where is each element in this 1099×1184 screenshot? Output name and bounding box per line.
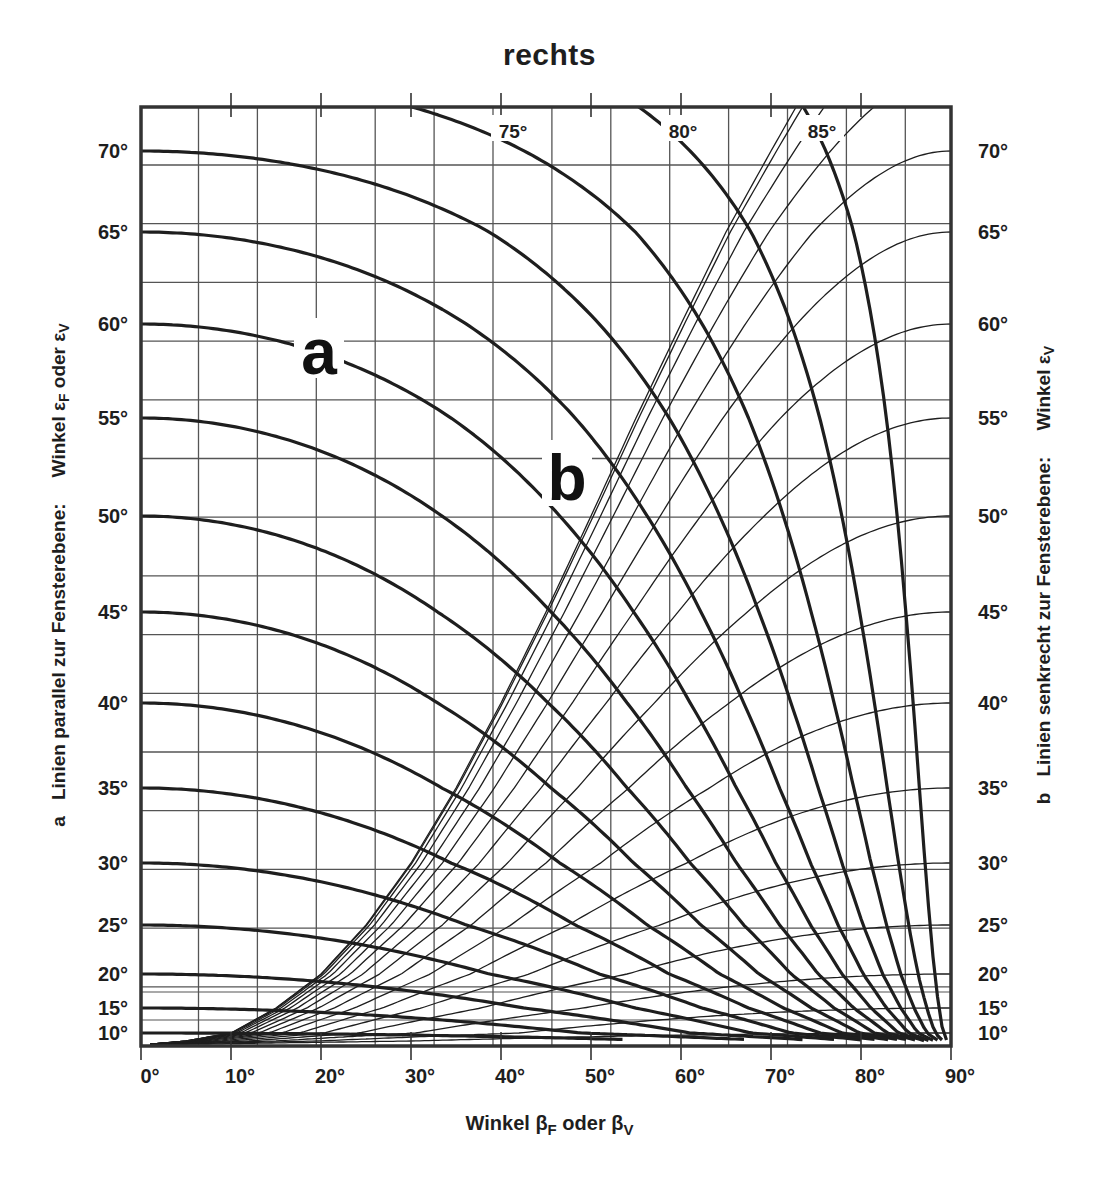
- y-tick-label-left: 35°: [98, 777, 128, 799]
- y-right-sub-v: V: [1041, 346, 1057, 355]
- curve-b-75: [150, 72, 951, 1044]
- curve-label-a: a: [301, 316, 337, 388]
- x-tick-label: 30°: [405, 1065, 435, 1087]
- y-left-sub-v: V: [56, 323, 72, 332]
- x-axis-label-text-2: oder β: [557, 1112, 624, 1134]
- curves-group: [141, 0, 951, 1045]
- y-tick-label-right: 55°: [978, 407, 1008, 429]
- x-axis-label-text: Winkel β: [466, 1112, 548, 1134]
- x-tick-label: 50°: [585, 1065, 615, 1087]
- y-axis-label-left: aLinien parallel zur Fensterebene:Winkel…: [48, 323, 73, 826]
- curve-label-b: b: [547, 442, 586, 514]
- top-curve-label: 75°: [499, 121, 528, 142]
- y-tick-label-right: 10°: [978, 1022, 1008, 1044]
- x-tick-label: 10°: [225, 1065, 255, 1087]
- curve-b-85: [150, 0, 951, 1044]
- y-tick-label-left: 20°: [98, 963, 128, 985]
- y-right-letter-b: b: [1033, 793, 1054, 805]
- y-right-winkel: Winkel ε: [1033, 355, 1054, 430]
- y-tick-label-left: 45°: [98, 601, 128, 623]
- y-tick-label-left: 10°: [98, 1022, 128, 1044]
- y-left-sub-f: F: [56, 393, 72, 402]
- y-tick-label-right: 45°: [978, 601, 1008, 623]
- y-tick-label-right: 40°: [978, 692, 1008, 714]
- x-axis-label-sub-v: V: [623, 1121, 633, 1138]
- x-tick-label: 60°: [675, 1065, 705, 1087]
- y-tick-label-right: 20°: [978, 963, 1008, 985]
- x-axis-label-sub-f: F: [548, 1121, 557, 1138]
- y-tick-label-left: 40°: [98, 692, 128, 714]
- y-right-text: Linien senkrecht zur Fensterebene:: [1033, 457, 1054, 777]
- y-left-oder: oder ε: [48, 333, 69, 394]
- x-tick-label: 20°: [315, 1065, 345, 1087]
- y-tick-label-right: 65°: [978, 221, 1008, 243]
- x-axis-label: Winkel βF oder βV: [0, 1112, 1099, 1138]
- y-tick-label-right: 15°: [978, 997, 1008, 1019]
- y-axis-label-right: bLinien senkrecht zur Fensterebene:Winke…: [1033, 346, 1058, 804]
- y-tick-label-left: 55°: [98, 407, 128, 429]
- x-tick-label: 40°: [495, 1065, 525, 1087]
- curve-a-50: [141, 516, 906, 1040]
- y-left-winkel: Winkel ε: [48, 402, 69, 477]
- y-tick-label-left: 25°: [98, 914, 128, 936]
- x-tick-label: 70°: [765, 1065, 795, 1087]
- chart-plot: 0°10°20°30°40°50°60°70°80°90°70°70°65°65…: [0, 0, 1099, 1184]
- y-tick-label-left: 70°: [98, 140, 128, 162]
- x-tick-label: 90°: [945, 1065, 975, 1087]
- y-left-letter-a: a: [48, 816, 69, 827]
- y-tick-label-right: 60°: [978, 313, 1008, 335]
- y-tick-label-right: 70°: [978, 140, 1008, 162]
- y-left-text: Linien parallel zur Fensterebene:: [48, 503, 69, 800]
- y-tick-label-left: 65°: [98, 221, 128, 243]
- curve-b-80: [150, 0, 951, 1044]
- curve-a-75: [141, 72, 938, 1040]
- y-tick-label-left: 30°: [98, 852, 128, 874]
- top-curve-label: 80°: [669, 121, 698, 142]
- y-tick-label-left: 50°: [98, 505, 128, 527]
- y-tick-label-right: 35°: [978, 777, 1008, 799]
- y-tick-label-right: 50°: [978, 505, 1008, 527]
- curve-a-80: [141, 0, 942, 1040]
- x-tick-label: 0°: [140, 1065, 159, 1087]
- y-tick-label-left: 60°: [98, 313, 128, 335]
- y-tick-label-right: 25°: [978, 914, 1008, 936]
- y-tick-label-right: 30°: [978, 852, 1008, 874]
- y-tick-label-left: 15°: [98, 997, 128, 1019]
- curve-b-90: [150, 0, 951, 1044]
- x-tick-label: 80°: [855, 1065, 885, 1087]
- top-curve-label: 85°: [808, 121, 837, 142]
